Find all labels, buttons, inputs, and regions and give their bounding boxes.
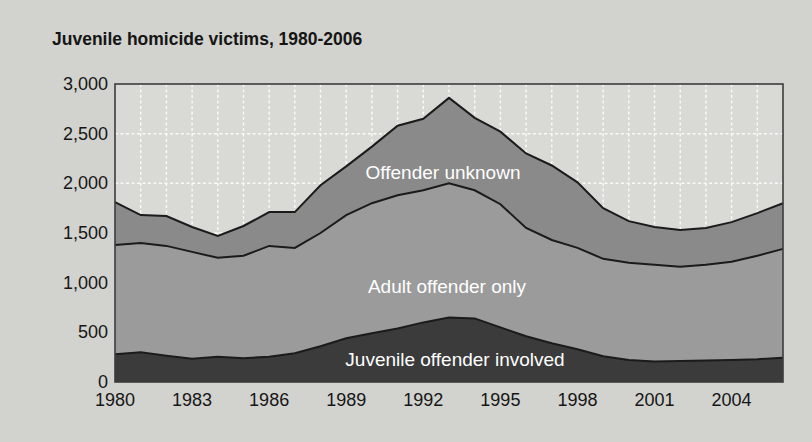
series-label-adult-offender-only: Adult offender only bbox=[277, 276, 617, 298]
x-tick-label: 1992 bbox=[391, 389, 455, 411]
x-tick-label: 2004 bbox=[700, 389, 764, 411]
series-label-offender-unknown: Offender unknown bbox=[273, 162, 613, 184]
y-tick-label: 1,000 bbox=[30, 272, 108, 294]
y-tick-label: 3,000 bbox=[30, 73, 108, 95]
x-tick-label: 1986 bbox=[237, 389, 301, 411]
x-tick-label: 1983 bbox=[160, 389, 224, 411]
series-label-juvenile-offender-involved: Juvenile offender involved bbox=[285, 349, 625, 371]
chart-page: Juvenile homicide victims, 1980-2006 3,0… bbox=[0, 0, 812, 442]
x-tick-label: 1995 bbox=[468, 389, 532, 411]
x-tick-label: 1998 bbox=[545, 389, 609, 411]
y-tick-label: 2,000 bbox=[30, 172, 108, 194]
x-tick-label: 1980 bbox=[83, 389, 147, 411]
y-tick-label: 2,500 bbox=[30, 123, 108, 145]
y-tick-label: 500 bbox=[30, 321, 108, 343]
x-tick-label: 2001 bbox=[623, 389, 687, 411]
y-tick-label: 1,500 bbox=[30, 222, 108, 244]
stacked-area-chart bbox=[0, 0, 812, 442]
x-tick-label: 1989 bbox=[314, 389, 378, 411]
